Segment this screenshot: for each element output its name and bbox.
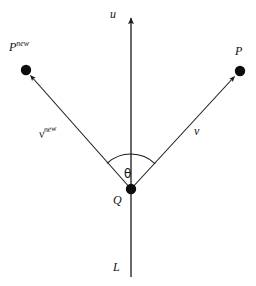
vector-v-shaft	[131, 77, 235, 190]
label-axis-u: u	[110, 8, 116, 20]
point-dot-q	[126, 184, 136, 194]
label-vector-v-new: vnew	[38, 126, 58, 140]
label-line-l: L	[113, 261, 120, 273]
label-origin-q: Q	[113, 194, 122, 206]
diagram-svg	[0, 0, 256, 286]
label-point-p-new-superscript: new	[16, 39, 29, 48]
label-vector-v: v	[194, 125, 199, 137]
label-angle-theta: θ	[124, 168, 131, 180]
point-dot-p	[235, 66, 245, 76]
label-vector-v-new-superscript: new	[43, 124, 57, 135]
point-dot-p-new	[21, 65, 31, 75]
diagram-canvas: u Pnew P vnew v θ Q L	[0, 0, 256, 286]
label-point-p-new: Pnew	[9, 41, 29, 53]
label-point-p: P	[235, 45, 242, 57]
